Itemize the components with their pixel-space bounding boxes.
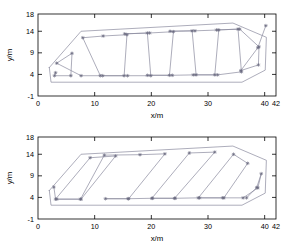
x-tick-label: 40 xyxy=(261,222,269,231)
y-tick-label: 18 xyxy=(26,10,34,19)
series-field-boundary xyxy=(49,23,266,82)
y-tick-label: 9 xyxy=(30,171,34,180)
y-tick-label: 4 xyxy=(30,193,34,202)
marker-group-coverage-path xyxy=(53,24,268,78)
x-tick-label: 42 xyxy=(272,222,280,231)
x-axis-title: x/m xyxy=(151,234,164,243)
x-tick-label: 30 xyxy=(204,222,212,231)
y-tick-label: 9 xyxy=(30,48,34,57)
x-tick-label: 10 xyxy=(91,222,99,231)
y-axis-title: y/m xyxy=(5,172,14,185)
y-tick-label: 18 xyxy=(26,133,34,142)
x-axis-title: x/m xyxy=(151,111,164,120)
x-tick-label: 42 xyxy=(272,99,280,108)
chart-panel-bottom: 01020304042-1491418x/my/m xyxy=(0,123,293,246)
x-tick-label: 40 xyxy=(261,99,269,108)
y-tick-label: 14 xyxy=(26,27,34,36)
x-tick-label: 0 xyxy=(36,222,40,231)
chart-panel-top: 01020304042-1491418x/my/m xyxy=(0,0,293,123)
x-tick-label: 30 xyxy=(204,99,212,108)
x-tick-label: 10 xyxy=(91,99,99,108)
x-tick-label: 0 xyxy=(36,99,40,108)
y-tick-label: 14 xyxy=(26,150,34,159)
coverage-plot-top: 01020304042-1491418x/my/m xyxy=(0,0,293,123)
coverage-plot-bottom: 01020304042-1491418x/my/m xyxy=(0,123,293,246)
y-axis-title: y/m xyxy=(5,49,14,62)
y-tick-label: -1 xyxy=(28,215,34,224)
x-tick-label: 20 xyxy=(147,222,155,231)
y-tick-label: 4 xyxy=(30,70,34,79)
x-tick-label: 20 xyxy=(147,99,155,108)
series-coverage-path xyxy=(54,152,261,199)
y-tick-label: -1 xyxy=(28,92,34,101)
series-coverage-path xyxy=(54,26,265,76)
